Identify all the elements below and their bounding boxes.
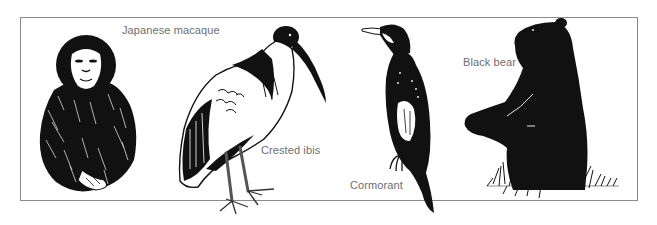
black-bear-illustration [463, 18, 623, 200]
label-black-bear: Black bear [463, 56, 516, 68]
label-cormorant: Cormorant [350, 179, 403, 191]
japanese-macaque-illustration [34, 30, 140, 195]
crested-ibis-illustration [176, 19, 332, 214]
label-crested-ibis: Crested ibis [261, 144, 320, 156]
